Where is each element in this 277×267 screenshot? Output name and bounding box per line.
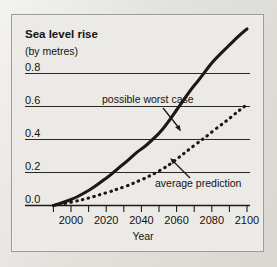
y-tick-label-0.2: 0.2: [25, 160, 40, 172]
figure-frame: Sea level rise (by metres) 0.8 0.6 0.4 0…: [11, 14, 264, 252]
x-axis-title: Year: [132, 230, 154, 242]
y-tick-label-0.0: 0.0: [25, 193, 40, 205]
y-tick-label-0.4: 0.4: [25, 127, 40, 139]
y-tick-label-0.6: 0.6: [25, 94, 40, 106]
x-tick-label-2060: 2060: [164, 214, 188, 226]
chart-title: Sea level rise: [25, 28, 98, 40]
y-tick-label-0.8: 0.8: [25, 61, 40, 73]
annotation-arrow-average-prediction: [170, 158, 190, 178]
annotation-label-average-prediction: average prediction: [155, 177, 242, 189]
chart-subtitle: (by metres): [25, 45, 78, 57]
annotation-label-possible-worst-case: possible worst case: [102, 93, 194, 105]
x-axis-ticks: [53, 206, 247, 213]
annotation-arrow-possible-worst-case: [163, 108, 181, 132]
x-tick-label-2040: 2040: [129, 214, 153, 226]
x-tick-label-2080: 2080: [200, 214, 224, 226]
sea-level-rise-chart: Sea level rise (by metres) 0.8 0.6 0.4 0…: [12, 15, 263, 251]
x-tick-label-2100: 2100: [235, 214, 259, 226]
series-line-average-prediction: [53, 105, 247, 206]
x-tick-label-2000: 2000: [59, 214, 83, 226]
x-tick-label-2020: 2020: [94, 214, 118, 226]
